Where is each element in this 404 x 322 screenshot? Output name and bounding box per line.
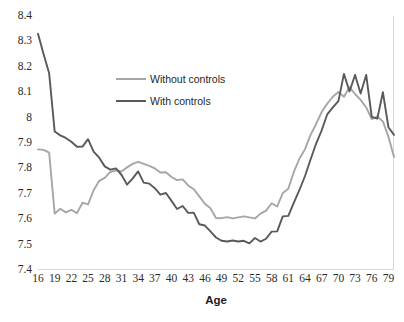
series-line xyxy=(38,34,394,244)
x-tick-label: 49 xyxy=(216,272,228,284)
x-tick-label: 19 xyxy=(49,272,61,284)
x-tick-label: 34 xyxy=(132,272,144,284)
x-tick-label: 76 xyxy=(366,272,378,284)
x-axis: 1619222528313437404346495255586164677073… xyxy=(38,272,394,288)
x-tick-label: 25 xyxy=(82,272,94,284)
y-tick-label: 7.5 xyxy=(18,239,32,250)
legend-item[interactable]: Without controls xyxy=(116,68,276,90)
y-tick-label: 8.3 xyxy=(18,35,32,46)
y-tick-label: 8.1 xyxy=(18,86,32,97)
x-axis-title: Age xyxy=(38,294,394,306)
y-tick-label: 7.4 xyxy=(18,264,32,275)
y-tick-label: 8.4 xyxy=(18,10,32,21)
chart-legend: Without controlsWith controls xyxy=(116,68,276,112)
x-tick-label: 22 xyxy=(66,272,78,284)
x-tick-label: 46 xyxy=(199,272,211,284)
line-chart: 8.48.38.28.187.97.87.77.67.57.4 16192225… xyxy=(0,0,404,322)
x-tick-label: 43 xyxy=(182,272,194,284)
x-tick-label: 37 xyxy=(149,272,161,284)
x-tick-label: 73 xyxy=(349,272,361,284)
y-axis: 8.48.38.28.187.97.87.77.67.57.4 xyxy=(0,0,36,290)
x-tick-label: 40 xyxy=(166,272,178,284)
x-tick-label: 67 xyxy=(316,272,328,284)
legend-swatch-icon xyxy=(116,100,146,102)
x-tick-label: 55 xyxy=(249,272,261,284)
plot-area xyxy=(38,16,394,270)
x-tick-label: 79 xyxy=(383,272,395,284)
y-tick-label: 7.8 xyxy=(18,162,32,173)
legend-label: Without controls xyxy=(150,73,225,85)
legend-swatch-icon xyxy=(116,78,146,80)
y-tick-label: 8.2 xyxy=(18,61,32,72)
y-tick-label: 8 xyxy=(26,112,32,123)
x-tick-label: 52 xyxy=(233,272,245,284)
x-tick-label: 31 xyxy=(116,272,128,284)
y-tick-label: 7.7 xyxy=(18,188,32,199)
x-tick-label: 58 xyxy=(266,272,278,284)
legend-item[interactable]: With controls xyxy=(116,90,276,112)
y-tick-label: 7.9 xyxy=(18,137,32,148)
x-tick-label: 28 xyxy=(99,272,111,284)
x-tick-label: 16 xyxy=(32,272,44,284)
x-tick-label: 70 xyxy=(333,272,345,284)
x-tick-label: 64 xyxy=(299,272,311,284)
legend-label: With controls xyxy=(150,95,211,107)
y-tick-label: 7.6 xyxy=(18,213,32,224)
series-layer xyxy=(38,16,394,270)
x-tick-label: 61 xyxy=(283,272,295,284)
